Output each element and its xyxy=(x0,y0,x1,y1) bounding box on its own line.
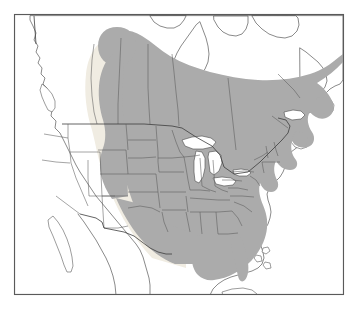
north-america-range-map xyxy=(0,0,357,313)
range-map-figure: Shaded distribution range xyxy=(0,0,357,313)
